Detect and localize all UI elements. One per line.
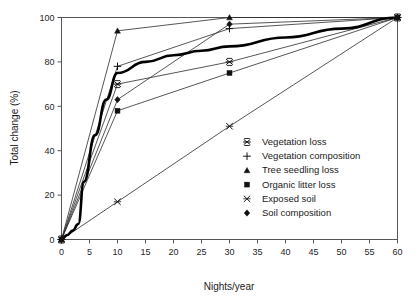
chart-figure: 051015202530354045505560 020406080100 Ve… xyxy=(0,0,419,297)
x-tick-label: 15 xyxy=(140,247,150,257)
y-tick-label: 40 xyxy=(44,146,54,156)
y-axis-title: Total change (%) xyxy=(9,90,20,165)
legend-marker-square-icon xyxy=(245,182,250,187)
marker-organic-litter-loss xyxy=(115,108,120,113)
y-tick-label: 20 xyxy=(44,190,54,200)
legend-label: Vegetation loss xyxy=(262,136,327,147)
y-tick-label: 100 xyxy=(39,13,54,23)
y-tick-label: 0 xyxy=(49,235,54,245)
x-tick-label: 20 xyxy=(168,247,178,257)
y-tick-label: 60 xyxy=(44,102,54,112)
x-tick-label: 40 xyxy=(280,247,290,257)
y-tick-label: 80 xyxy=(44,57,54,67)
x-axis-title: Nights/year xyxy=(204,281,255,292)
x-tick-label: 35 xyxy=(252,247,262,257)
x-tick-label: 5 xyxy=(87,247,92,257)
legend-label: Exposed soil xyxy=(262,193,316,204)
x-tick-label: 25 xyxy=(196,247,206,257)
legend-label: Vegetation composition xyxy=(262,150,360,161)
legend-label: Organic litter loss xyxy=(262,179,336,190)
x-tick-label: 50 xyxy=(336,247,346,257)
x-tick-label: 30 xyxy=(224,247,234,257)
marker-organic-litter-loss xyxy=(227,71,232,76)
x-tick-label: 60 xyxy=(392,247,402,257)
chart-canvas: 051015202530354045505560 020406080100 Ve… xyxy=(0,0,419,297)
legend-label: Tree seedling loss xyxy=(262,164,339,175)
legend-label: Soil composition xyxy=(262,207,331,218)
x-tick-label: 55 xyxy=(364,247,374,257)
x-tick-label: 45 xyxy=(308,247,318,257)
x-tick-label: 0 xyxy=(59,247,64,257)
x-tick-label: 10 xyxy=(112,247,122,257)
